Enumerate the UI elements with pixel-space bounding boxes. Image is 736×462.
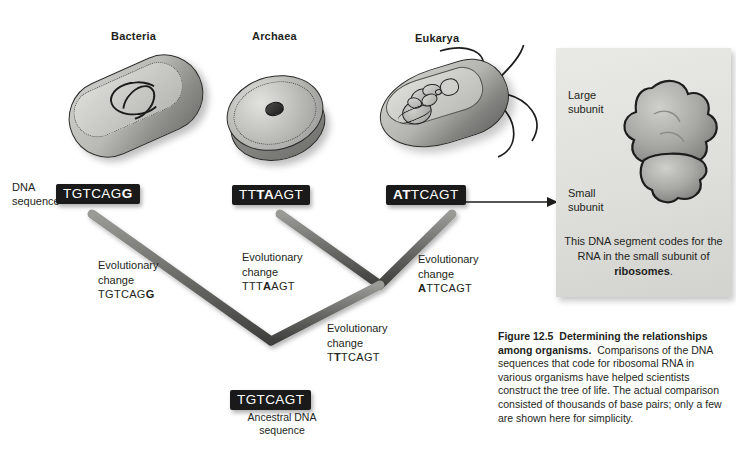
evo-seq-prefix: T — [327, 351, 334, 363]
large-subunit-line2: subunit — [568, 102, 603, 116]
dna-sequence-label-line2: sequence — [12, 194, 60, 208]
bacteria-cytoplasm — [66, 54, 191, 145]
domain-label-archaea: Archaea — [252, 30, 297, 42]
evo-line2: change — [418, 267, 479, 282]
inset-label-small-subunit: Small subunit — [568, 186, 603, 214]
sequence-chip-archaea: TTTAAGT — [232, 185, 310, 205]
tree-branches — [92, 214, 452, 390]
evo-line2: change — [98, 273, 159, 288]
inset-note-line1: This DNA segment codes for — [564, 235, 704, 247]
evo-seq-suffix: AGT — [271, 280, 295, 292]
evo-line1: Evolutionary — [327, 321, 388, 336]
seq-prefix: TGTCAG — [63, 186, 122, 201]
evo-sequence: TTTAAGT — [242, 279, 303, 294]
bacteria-cell-illustration — [60, 55, 215, 175]
domain-label-bacteria: Bacteria — [111, 30, 156, 42]
evo-line2: change — [242, 265, 303, 280]
caption-figure-number: Figure 12.5 — [498, 330, 553, 342]
evo-line2: change — [327, 336, 388, 351]
seq-mutation: G — [122, 186, 133, 201]
inset-note-text: This DNA segment codes for the RNA in th… — [564, 234, 723, 279]
small-subunit-line1: Small — [568, 186, 603, 200]
seq-mutation: TA — [256, 187, 274, 202]
seq-prefix: TT — [239, 187, 256, 202]
evolutionary-change-eukarya: Evolutionary change ATTCAGT — [418, 252, 479, 296]
ribosome-inset-panel: Large subunit Small subunit This DNA seg… — [556, 48, 731, 297]
small-subunit-line2: subunit — [568, 200, 603, 214]
figure-caption: Figure 12.5 Determining the relationship… — [498, 330, 730, 425]
evo-seq-mutation: T — [334, 351, 341, 363]
evo-seq-suffix: TTCAGT — [426, 282, 472, 294]
evo-seq-mutation: A — [418, 282, 426, 294]
archaea-cell-illustration — [218, 68, 338, 173]
evolutionary-change-bacteria: Evolutionary change TGTCAGG — [98, 258, 159, 302]
eukarya-cell-illustration — [370, 45, 550, 195]
ribosome-illustration — [608, 74, 726, 234]
evo-sequence: ATTCAGT — [418, 281, 479, 296]
evo-sequence: TTTCAGT — [327, 350, 388, 365]
evolutionary-change-archaea: Evolutionary change TTTAAGT — [242, 250, 303, 294]
bacteria-rod-body — [56, 42, 216, 170]
evo-line1: Evolutionary — [418, 252, 479, 267]
inset-pointer-arrow — [455, 190, 560, 214]
ancestral-sequence: TGTCAGT — [237, 392, 304, 407]
sequence-chip-bacteria: TGTCAGG — [56, 184, 140, 204]
evo-sequence: TGTCAGG — [98, 287, 159, 302]
ancestral-label-line2: sequence — [222, 424, 342, 437]
evolutionary-change-common-ancestor: Evolutionary change TTTCAGT — [327, 321, 388, 365]
inset-note-period: . — [670, 265, 673, 277]
inset-note-bold-term: ribosomes — [614, 265, 670, 277]
ancestral-label-line1: Ancestral DNA — [222, 411, 342, 424]
figure-canvas: Bacteria Archaea Eukarya — [0, 0, 736, 462]
sequence-chip-eukarya: ATTCAGT — [386, 185, 466, 205]
eukarya-golgi-body — [438, 76, 461, 98]
evo-line1: Evolutionary — [98, 258, 159, 273]
evo-seq-mutation: G — [146, 288, 155, 300]
seq-suffix: TCAGT — [411, 187, 459, 202]
ribosome-small-subunit — [641, 154, 707, 202]
evo-seq-suffix: TCAGT — [341, 351, 380, 363]
ancestral-sequence-label: Ancestral DNA sequence — [222, 411, 342, 437]
dna-sequence-row-label: DNA sequence — [12, 180, 60, 208]
evo-line1: Evolutionary — [242, 250, 303, 265]
sequence-chip-ancestral: TGTCAGT — [230, 390, 311, 410]
seq-mutation: AT — [393, 187, 411, 202]
large-subunit-line1: Large — [568, 88, 603, 102]
inset-label-large-subunit: Large subunit — [568, 88, 603, 116]
evo-seq-prefix: TTT — [242, 280, 263, 292]
dna-sequence-label-line1: DNA — [12, 180, 60, 194]
inset-note-of: of — [700, 250, 709, 262]
seq-suffix: AGT — [274, 187, 303, 202]
domain-label-eukarya: Eukarya — [415, 32, 459, 44]
evo-seq-prefix: TGTCAG — [98, 288, 146, 300]
